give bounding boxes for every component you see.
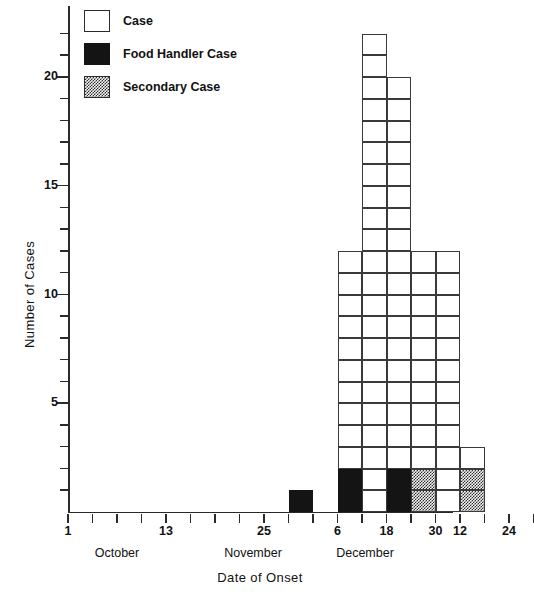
- bar-cell-case: [387, 338, 412, 360]
- bar-cell-case: [436, 273, 461, 295]
- x-axis-tick-15: [435, 514, 437, 523]
- bar-cell-case: [362, 382, 387, 404]
- bar-cell-case: [387, 382, 412, 404]
- x-axis-tick-16: [459, 514, 461, 523]
- bar-cell-case: [411, 273, 436, 295]
- bar-cell-case: [362, 142, 387, 164]
- bar-cell-case: [411, 316, 436, 338]
- bar-cell-case: [338, 295, 363, 317]
- y-axis-label-15: 15: [28, 178, 58, 192]
- legend-label-food-handler-case: Food Handler Case: [123, 47, 237, 61]
- x-axis-tick-3: [141, 514, 143, 523]
- y-axis-tick-7: [60, 359, 68, 361]
- y-axis-tick-9: [60, 315, 68, 317]
- bar-cell-case: [362, 338, 387, 360]
- legend-swatch-food-handler-case: [84, 43, 110, 65]
- y-axis-title: Number of Cases: [22, 241, 37, 348]
- bar-cell-case: [436, 316, 461, 338]
- x-axis-label-18: 18: [372, 524, 402, 538]
- bar-cell-case: [338, 382, 363, 404]
- bar-cell-case: [362, 164, 387, 186]
- bar-cell-case: [387, 425, 412, 447]
- bar-cell-case: [411, 295, 436, 317]
- x-axis-tick-18: [508, 514, 510, 523]
- bar-cell-case: [362, 273, 387, 295]
- bar-cell-case: [387, 403, 412, 425]
- y-axis-tick-14: [60, 207, 68, 209]
- bar-cell-case: [387, 186, 412, 208]
- bar-cell-case: [362, 99, 387, 121]
- bar-cell-case: [436, 295, 461, 317]
- bar-cell-case: [411, 447, 436, 469]
- y-axis-tick-20: [57, 76, 68, 78]
- x-axis-tick-0: [67, 514, 69, 523]
- legend-swatch-case: [84, 10, 110, 32]
- bar-cell-case: [387, 273, 412, 295]
- x-axis-month-october: October: [62, 546, 172, 560]
- bar-cell-case: [436, 469, 461, 491]
- y-axis-tick-5: [57, 402, 68, 404]
- bar-cell-case: [362, 55, 387, 77]
- x-axis-label-13: 13: [151, 524, 181, 538]
- bar-cell-case: [338, 251, 363, 273]
- x-axis-tick-1: [92, 514, 94, 523]
- bar-cell-case: [362, 490, 387, 512]
- y-axis-tick-22: [60, 33, 68, 35]
- bar-cell-case: [387, 121, 412, 143]
- bar-cell-case: [387, 251, 412, 273]
- bar-cell-case: [362, 469, 387, 491]
- bar-cell-case: [436, 447, 461, 469]
- x-axis-month-december: December: [310, 546, 420, 560]
- x-axis-label-1: 1: [53, 524, 83, 538]
- x-axis-label-24: 24: [494, 524, 524, 538]
- x-axis-tick-9: [288, 514, 290, 523]
- bar-cell-case: [411, 338, 436, 360]
- bar-cell-case: [338, 425, 363, 447]
- x-axis-tick-11: [337, 514, 339, 523]
- bar-cell-case: [411, 425, 436, 447]
- x-axis-tick-12: [361, 514, 363, 523]
- bar-cell-case: [362, 34, 387, 56]
- x-axis-tick-14: [410, 514, 412, 523]
- bar-cell-case: [436, 490, 461, 512]
- y-axis-line: [68, 6, 70, 513]
- x-axis-tick-6: [214, 514, 216, 523]
- chart-legend: Case Food Handler Case Secondary Case: [84, 8, 284, 100]
- y-axis-tick-12: [60, 250, 68, 252]
- bar-cell-case: [338, 360, 363, 382]
- y-axis-tick-18: [60, 120, 68, 122]
- bar-cell-case: [338, 273, 363, 295]
- y-axis-tick-11: [60, 272, 68, 274]
- bar-cell-case: [436, 425, 461, 447]
- bar-cell-food: [387, 469, 412, 491]
- y-axis-label-20: 20: [28, 69, 58, 83]
- legend-item-secondary-case: Secondary Case: [84, 76, 220, 98]
- x-axis-tick-5: [190, 514, 192, 523]
- bar-cell-case: [362, 208, 387, 230]
- x-axis-month-november: November: [198, 546, 308, 560]
- bar-cell-case: [362, 295, 387, 317]
- bar-cell-case: [387, 295, 412, 317]
- bar-cell-case: [411, 382, 436, 404]
- bar-cell-case: [411, 360, 436, 382]
- bar-cell-case: [411, 251, 436, 273]
- x-axis-label-12: 12: [445, 524, 475, 538]
- legend-label-case: Case: [123, 14, 153, 28]
- x-axis-title: Date of Onset: [130, 570, 390, 585]
- bar-cell-secondary: [460, 469, 485, 491]
- bar-cell-food: [289, 490, 314, 512]
- bar-cell-case: [387, 229, 412, 251]
- y-axis-tick-21: [60, 54, 68, 56]
- bar-cell-case: [436, 338, 461, 360]
- y-axis-tick-13: [60, 228, 68, 230]
- x-axis-tick-17: [484, 514, 486, 523]
- y-axis-tick-2: [60, 468, 68, 470]
- bar-cell-case: [387, 99, 412, 121]
- x-axis-tick-8: [263, 514, 265, 523]
- y-axis-tick-3: [60, 446, 68, 448]
- x-axis-tick-2: [116, 514, 118, 523]
- bar-cell-case: [338, 447, 363, 469]
- legend-swatch-secondary-case: [84, 76, 110, 98]
- bar-cell-case: [362, 251, 387, 273]
